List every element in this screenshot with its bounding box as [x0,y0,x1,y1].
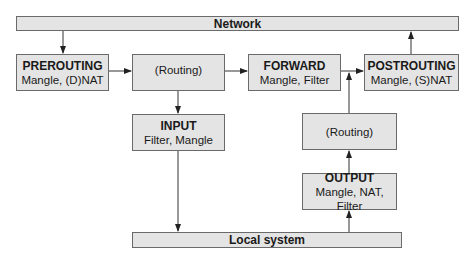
flow-arrows [0,0,472,259]
